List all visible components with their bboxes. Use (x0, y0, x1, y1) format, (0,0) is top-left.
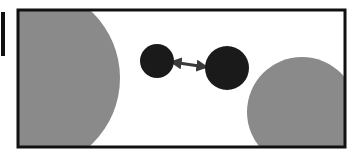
small-circle-left (140, 44, 174, 78)
small-circle-right (205, 46, 249, 90)
diagram-canvas (0, 0, 359, 156)
left-edge-mark (1, 12, 5, 56)
